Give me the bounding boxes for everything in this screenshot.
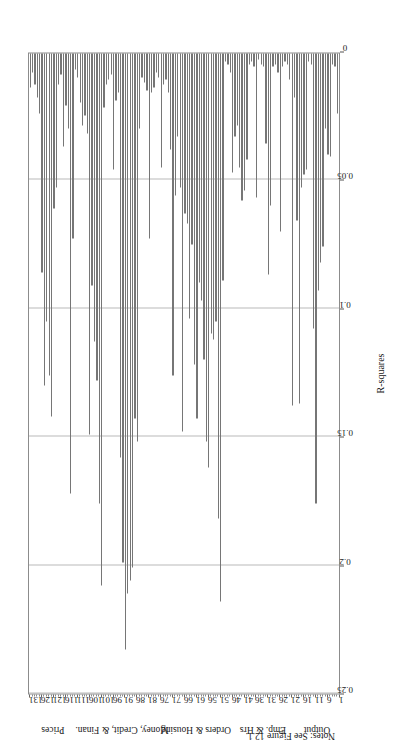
bar bbox=[191, 52, 192, 244]
value-tick-label: 0 bbox=[343, 42, 348, 52]
plot-area bbox=[28, 52, 340, 694]
bar bbox=[196, 52, 197, 418]
bar bbox=[263, 52, 264, 66]
bar bbox=[132, 52, 133, 567]
bar bbox=[218, 52, 219, 518]
value-tick-label: 0.25 bbox=[337, 684, 353, 694]
bar bbox=[65, 52, 66, 105]
bar bbox=[122, 52, 123, 562]
value-axis-title: R-squares bbox=[375, 52, 386, 694]
bar bbox=[284, 52, 285, 61]
bar bbox=[251, 52, 252, 61]
bar bbox=[153, 52, 154, 87]
bar bbox=[211, 52, 212, 333]
bar bbox=[241, 52, 242, 200]
bar bbox=[137, 52, 138, 441]
bar bbox=[99, 52, 100, 503]
bar bbox=[60, 52, 61, 74]
bar bbox=[282, 52, 283, 66]
bar bbox=[182, 52, 183, 431]
category-tick-label: 36 bbox=[255, 695, 264, 704]
bar bbox=[206, 52, 207, 441]
bar bbox=[230, 52, 231, 72]
category-tick-label: 21 bbox=[291, 695, 300, 704]
bar bbox=[163, 52, 164, 84]
category-minor-tick bbox=[182, 694, 183, 696]
bar bbox=[215, 52, 216, 321]
bar bbox=[177, 52, 178, 136]
bar bbox=[280, 52, 281, 231]
category-minor-tick bbox=[336, 694, 337, 696]
category-minor-tick bbox=[301, 694, 302, 696]
bar bbox=[208, 52, 209, 467]
bar bbox=[49, 52, 50, 375]
category-minor-tick bbox=[170, 694, 171, 696]
bar bbox=[130, 52, 131, 580]
bar bbox=[77, 52, 78, 77]
category-tick-label: 71 bbox=[172, 695, 181, 704]
bar bbox=[270, 52, 271, 205]
bar bbox=[332, 52, 333, 64]
note-text: Notes: See Figure 12.1. bbox=[246, 730, 335, 740]
bar bbox=[308, 52, 309, 61]
bar bbox=[118, 52, 119, 92]
bar bbox=[41, 52, 42, 272]
bar bbox=[194, 52, 195, 364]
bar bbox=[256, 52, 257, 197]
bar bbox=[203, 52, 204, 359]
bar bbox=[175, 52, 176, 195]
category-minor-tick bbox=[194, 694, 195, 696]
bar bbox=[158, 52, 159, 77]
category-tick-label: 16 bbox=[303, 695, 312, 704]
category-tick-label: 56 bbox=[208, 695, 217, 704]
category-tick-label: 6 bbox=[327, 695, 332, 704]
bar bbox=[127, 52, 128, 593]
bar bbox=[172, 52, 173, 375]
category-minor-tick bbox=[122, 694, 123, 696]
bar bbox=[337, 52, 338, 113]
bar bbox=[292, 52, 293, 405]
category-minor-tick bbox=[325, 694, 326, 696]
bar bbox=[253, 52, 254, 66]
category-tick-label: 46 bbox=[232, 695, 241, 704]
bar bbox=[139, 52, 140, 128]
bar bbox=[239, 52, 240, 167]
bar bbox=[246, 52, 247, 159]
bar bbox=[275, 52, 276, 64]
bar bbox=[303, 52, 304, 174]
bar bbox=[165, 52, 166, 79]
bar bbox=[53, 52, 54, 208]
bar bbox=[249, 52, 250, 64]
bar bbox=[70, 52, 71, 493]
category-minor-tick bbox=[229, 694, 230, 696]
bar bbox=[311, 52, 312, 64]
bar bbox=[34, 52, 35, 84]
category-tick-label: 111 bbox=[77, 695, 90, 704]
bar bbox=[306, 52, 307, 169]
category-minor-tick bbox=[205, 694, 206, 696]
bar bbox=[261, 52, 262, 64]
bar bbox=[134, 52, 135, 418]
bar bbox=[184, 52, 185, 213]
value-tick-label: 0.1 bbox=[339, 299, 350, 309]
bar bbox=[322, 52, 323, 246]
bar bbox=[213, 52, 214, 339]
bar bbox=[84, 52, 85, 115]
bar bbox=[82, 52, 83, 125]
bar bbox=[268, 52, 269, 274]
bar bbox=[58, 52, 59, 84]
category-tick-label: 31 bbox=[267, 695, 276, 704]
bar bbox=[313, 52, 314, 328]
bar bbox=[113, 52, 114, 169]
category-tick-label: 66 bbox=[184, 695, 193, 704]
bar bbox=[125, 52, 126, 649]
bar bbox=[68, 52, 69, 128]
category-tick-label: 76 bbox=[160, 695, 169, 704]
bar bbox=[199, 52, 200, 282]
bar bbox=[161, 52, 162, 167]
category-tick-label: 126 bbox=[41, 695, 55, 704]
bar bbox=[294, 52, 295, 97]
bar bbox=[46, 52, 47, 321]
bar bbox=[96, 52, 97, 380]
